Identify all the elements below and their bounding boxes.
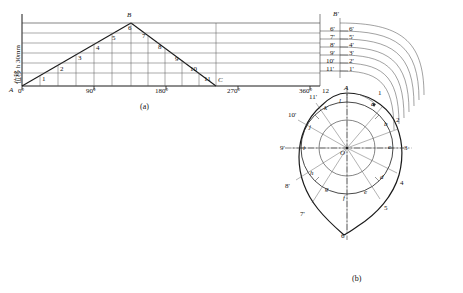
cam-number-11p: 11'	[309, 94, 317, 101]
grid-verticals	[40, 23, 216, 86]
right-label-2p: 2'	[349, 58, 354, 65]
division-6: 6	[128, 25, 132, 32]
x-tick-180: 180°	[155, 88, 168, 95]
cam-center-label: O	[340, 150, 345, 157]
figure-svg	[0, 0, 463, 293]
cam-letter-i: i	[303, 145, 305, 152]
cam-number-2: 2	[396, 117, 400, 124]
cam-profile-curve	[299, 93, 402, 235]
right-label-Bp: B'	[333, 11, 339, 18]
division-4: 4	[96, 45, 100, 52]
cam-number-12: 12	[322, 88, 329, 95]
caption-a: (a)	[140, 103, 149, 111]
cam-number-1: 1	[378, 90, 382, 97]
right-label-3p: 3'	[349, 50, 354, 57]
division-11: 11	[204, 76, 211, 83]
right-label-8p: 8'	[330, 42, 335, 49]
cam-letter-b: b	[384, 121, 388, 128]
cam-letter-f: f	[343, 195, 345, 202]
cam-top-label: A	[344, 85, 348, 92]
cam-letter-h: h	[310, 170, 314, 177]
right-label-11p: 11'	[326, 66, 334, 73]
cam-number-9p: 9'	[280, 145, 285, 152]
division-5: 5	[112, 35, 116, 42]
cam-letter-e: e	[364, 189, 367, 196]
rise-line	[22, 23, 131, 86]
grid-horizontals	[22, 33, 320, 73]
right-label-4p: 4'	[349, 42, 354, 49]
label-A: A	[9, 87, 13, 94]
cam-letter-d: d	[380, 174, 384, 181]
label-C: C	[218, 77, 223, 84]
x-tick-90: 90°	[86, 88, 96, 95]
cam-letter-j: j	[309, 124, 311, 131]
cam-number-3: 3	[404, 145, 408, 152]
cam-letter-k: k	[324, 105, 327, 112]
right-label-6pb: 6'	[349, 26, 354, 33]
cam-letter-c: c	[388, 144, 391, 151]
division-7: 7	[142, 33, 146, 40]
cam-letter-l: l	[339, 98, 341, 105]
cam-number-6p: 6'	[341, 233, 346, 240]
cam-number-10p: 10'	[288, 112, 296, 119]
division-1: 1	[42, 76, 46, 83]
right-label-9p: 9'	[330, 50, 335, 57]
right-label-10p: 10'	[326, 58, 334, 65]
cam-letter-a: a	[371, 101, 375, 108]
right-label-5p: 5'	[349, 34, 354, 41]
right-label-1p: 1'	[349, 66, 354, 73]
x-tick-270: 270°	[227, 88, 240, 95]
cam-number-4: 4	[400, 180, 404, 187]
y-axis-label: 位移 h 30mm	[12, 45, 22, 84]
division-9: 9	[175, 56, 179, 63]
division-3: 3	[78, 55, 82, 62]
x-tick-0: 0°	[18, 88, 24, 95]
cam-number-7p: 7'	[300, 211, 305, 218]
center-point	[346, 147, 348, 149]
cam-number-8p: 8'	[285, 183, 290, 190]
label-B: B	[127, 12, 131, 19]
cam-letter-g: g	[325, 186, 329, 193]
figure-root: 位移 h 30mm (a) (b) 0° 90° 180° 270° 360° …	[0, 0, 463, 293]
division-10: 10	[190, 66, 197, 73]
right-label-7p: 7'	[330, 34, 335, 41]
division-2: 2	[60, 66, 64, 73]
division-8: 8	[158, 44, 162, 51]
cam-number-5: 5	[384, 205, 388, 212]
caption-b: (b)	[352, 275, 361, 283]
right-label-6p: 6'	[330, 26, 335, 33]
